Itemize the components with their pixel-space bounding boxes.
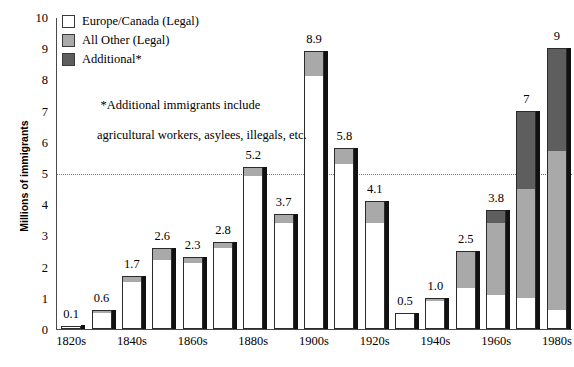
bar-shadow-1870s	[233, 246, 237, 329]
legend-item-allother[interactable]: All Other (Legal)	[62, 31, 362, 50]
bar-segment-1910s-allother	[334, 148, 354, 164]
bar-top-outline-1840s	[122, 276, 142, 277]
bar-top-face-1870s	[233, 242, 237, 246]
bar-segment-1950s-allother	[456, 251, 476, 288]
x-tick-1900s: 1900s	[299, 334, 329, 349]
bar-shadow-1980s	[567, 52, 571, 329]
bar-segment-1910s-legal	[334, 164, 354, 329]
bar-value-1970s: 7	[523, 92, 529, 107]
bar-group-1980s[interactable]: 9	[547, 17, 567, 329]
x-tick-1880s: 1880s	[238, 334, 268, 349]
bar-segment-1860s-legal	[183, 263, 203, 329]
bar-top-outline-1940s	[425, 298, 445, 299]
bar-top-outline-1860s	[183, 257, 203, 258]
bar-value-1840s: 1.7	[124, 257, 140, 272]
footnote-line-1: *Additional immigrants include	[101, 98, 261, 112]
y-tick-0: 0	[42, 323, 48, 338]
legend-item-legal[interactable]: Europe/Canada (Legal)	[62, 12, 362, 31]
bar-top-outline-1830s	[92, 310, 112, 311]
x-tick-1820s: 1820s	[56, 334, 86, 349]
legend: Europe/Canada (Legal)All Other (Legal)Ad…	[62, 12, 362, 69]
bar-segment-1850s-legal	[152, 260, 172, 329]
bar-group-1920s[interactable]: 4.1	[365, 17, 385, 329]
bar-top-outline-1920s	[365, 201, 385, 202]
bar-shadow-1880s	[263, 171, 267, 329]
y-tick-1: 1	[42, 291, 48, 306]
bar-group-1960s[interactable]: 3.8	[486, 17, 506, 329]
bar-segment-1870s-legal	[213, 248, 233, 329]
legend-swatch-legal-icon	[62, 15, 75, 28]
bar-segment-1890s-legal	[274, 223, 294, 329]
x-tick-1960s: 1960s	[481, 334, 511, 349]
bar-segment-1850s-allother	[152, 248, 172, 260]
legend-label-legal: Europe/Canada (Legal)	[82, 14, 199, 29]
bar-top-outline-1960s	[486, 210, 506, 211]
bar-value-1960s: 3.8	[488, 191, 504, 206]
bar-shadow-1830s	[112, 314, 116, 329]
bar-top-face-1820s	[81, 325, 85, 329]
bar-segment-1960s-legal	[486, 295, 506, 329]
legend-label-additional: Additional*	[82, 52, 142, 67]
bar-top-outline-1950s	[456, 251, 476, 252]
bar-segment-1970s-additional	[516, 111, 536, 189]
bar-top-outline-1910s	[334, 148, 354, 149]
bar-shadow-1970s	[536, 115, 540, 329]
bar-value-1820s: 0.1	[63, 307, 79, 322]
bar-shadow-1950s	[476, 255, 480, 329]
x-tick-1840s: 1840s	[117, 334, 147, 349]
bar-shadow-1960s	[506, 214, 510, 329]
bar-shadow-1840s	[142, 280, 146, 329]
legend-swatch-allother-icon	[62, 34, 75, 47]
x-axis-tick-labels: 1820s1840s1860s1880s1900s1920s1940s1960s…	[56, 334, 572, 360]
y-tick-7: 7	[42, 104, 48, 119]
bar-value-1950s: 2.5	[458, 232, 474, 247]
legend-footnote: *Additional immigrants include agricultu…	[88, 83, 307, 173]
x-tick-1940s: 1940s	[420, 334, 450, 349]
bar-shadow-1920s	[385, 205, 389, 329]
bar-segment-1840s-legal	[122, 282, 142, 329]
bar-segment-1920s-legal	[365, 223, 385, 329]
bar-shadow-1930s	[415, 317, 419, 329]
y-tick-4: 4	[42, 198, 48, 213]
legend-item-additional[interactable]: Additional*	[62, 50, 362, 69]
y-tick-3: 3	[42, 229, 48, 244]
bar-top-outline-1890s	[274, 214, 294, 215]
bar-segment-1880s-legal	[243, 176, 263, 329]
footnote-line-2: agricultural workers, asylees, illegals,…	[88, 128, 307, 143]
bar-group-1950s[interactable]: 2.5	[456, 17, 476, 329]
bar-top-outline-1850s	[152, 248, 172, 249]
bar-segment-1890s-allother	[274, 214, 294, 223]
bar-group-1930s[interactable]: 0.5	[395, 17, 415, 329]
bar-group-1970s[interactable]: 7	[516, 17, 536, 329]
bar-segment-1900s-legal	[304, 76, 324, 329]
y-tick-8: 8	[42, 73, 48, 88]
x-tick-1980s: 1980s	[542, 334, 572, 349]
bar-value-1860s: 2.3	[185, 238, 201, 253]
bar-top-face-1850s	[172, 248, 176, 252]
bar-value-1920s: 4.1	[367, 182, 383, 197]
bar-segment-1960s-additional	[486, 210, 506, 222]
legend-label-allother: All Other (Legal)	[82, 33, 169, 48]
legend-swatch-additional-icon	[62, 53, 75, 66]
bar-top-face-1840s	[142, 276, 146, 280]
bar-value-1830s: 0.6	[94, 291, 110, 306]
bar-shadow-1900s	[324, 55, 328, 329]
y-tick-2: 2	[42, 260, 48, 275]
bar-shadow-1940s	[445, 302, 449, 329]
bar-segment-1940s-legal	[425, 301, 445, 329]
bar-segment-1970s-legal	[516, 298, 536, 329]
bar-top-face-1940s	[445, 298, 449, 302]
bar-value-1870s: 2.8	[215, 223, 231, 238]
bar-segment-1930s-legal	[395, 313, 415, 329]
bar-shadow-1910s	[354, 152, 358, 329]
bar-top-face-1930s	[415, 313, 419, 317]
bar-segment-1970s-allother	[516, 189, 536, 298]
bar-group-1940s[interactable]: 1.0	[425, 17, 445, 329]
bar-value-1910s: 5.8	[337, 129, 353, 144]
bar-top-face-1830s	[112, 310, 116, 314]
bar-top-face-1920s	[385, 201, 389, 205]
bar-value-1850s: 2.6	[154, 229, 170, 244]
bar-segment-1960s-allother	[486, 223, 506, 295]
bar-shadow-1890s	[294, 218, 298, 329]
bar-segment-1950s-legal	[456, 288, 476, 329]
